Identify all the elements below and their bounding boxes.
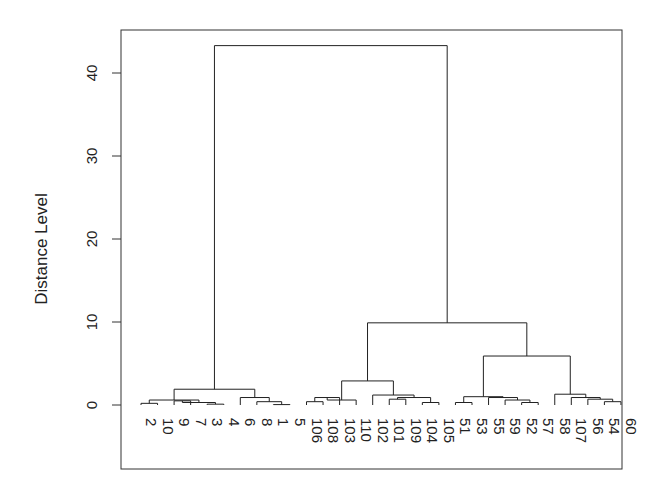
- leaf-label: 55: [491, 418, 508, 435]
- leaf-label: 9: [176, 418, 193, 426]
- leaf-label: 51: [457, 418, 474, 435]
- dendrogram-link: [368, 323, 527, 381]
- leaf-label: 103: [342, 418, 359, 443]
- leaf-label: 107: [573, 418, 590, 443]
- y-tick-label: 30: [83, 148, 100, 165]
- dendrogram-link: [174, 389, 255, 400]
- leaf-label: 57: [540, 418, 557, 435]
- dendrogram-link: [342, 381, 394, 400]
- leaf-label: 104: [424, 418, 441, 443]
- dendrogram-tree: [141, 46, 621, 405]
- leaf-labels: 2109734681510610810311010210110910410551…: [143, 418, 640, 443]
- y-tick-label: 10: [83, 314, 100, 331]
- dendrogram-link: [141, 403, 158, 405]
- leaf-label: 102: [375, 418, 392, 443]
- y-tick-label: 20: [83, 231, 100, 248]
- leaf-label: 56: [590, 418, 607, 435]
- dendrogram-link: [522, 403, 539, 405]
- leaf-label: 4: [226, 418, 243, 426]
- leaf-label: 52: [524, 418, 541, 435]
- dendrogram-link: [489, 398, 518, 405]
- leaf-label: 109: [408, 418, 425, 443]
- dendrogram-link: [571, 398, 600, 405]
- dendrogram-link: [604, 402, 621, 405]
- leaf-label: 105: [441, 418, 458, 443]
- dendrogram-link: [389, 399, 406, 405]
- leaf-label: 110: [358, 418, 375, 442]
- leaf-label: 59: [507, 418, 524, 435]
- dendrogram-link: [207, 404, 224, 405]
- leaf-label: 54: [606, 418, 623, 435]
- leaf-label: 1: [275, 418, 292, 426]
- leaf-label: 2: [143, 418, 160, 426]
- leaf-label: 5: [292, 418, 309, 426]
- leaf-label: 7: [193, 418, 210, 426]
- leaf-label: 58: [557, 418, 574, 435]
- dendrogram-link: [307, 402, 324, 405]
- leaf-label: 3: [209, 418, 226, 426]
- y-tick-label: 0: [83, 401, 100, 409]
- y-tick-label: 40: [83, 65, 100, 82]
- leaf-label: 106: [309, 418, 326, 443]
- y-axis: 010203040: [83, 65, 121, 410]
- dendrogram-link: [214, 46, 447, 390]
- leaf-label: 6: [242, 418, 259, 426]
- dendrogram-link: [455, 403, 472, 405]
- leaf-label: 60: [623, 418, 640, 435]
- dendrogram-link: [398, 398, 431, 403]
- dendrogram-link: [555, 394, 586, 405]
- y-axis-label: Distance Level: [32, 193, 51, 305]
- leaf-label: 108: [325, 418, 342, 443]
- dendrogram-link: [373, 395, 414, 405]
- plot-frame: [121, 30, 622, 469]
- leaf-label: 8: [259, 418, 276, 426]
- dendrogram-chart: 010203040 210973468151061081031101021011…: [0, 0, 646, 502]
- leaf-label: 53: [474, 418, 491, 435]
- dendrogram-link: [483, 356, 570, 397]
- leaf-label: 10: [160, 418, 177, 435]
- dendrogram-link: [422, 403, 439, 405]
- leaf-label: 101: [391, 418, 408, 443]
